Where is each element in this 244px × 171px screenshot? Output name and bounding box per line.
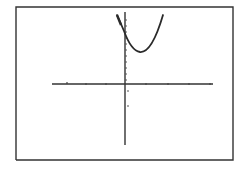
parabola-curve — [117, 15, 163, 52]
curve-left-segment — [117, 15, 121, 25]
graph-screen — [0, 0, 244, 171]
